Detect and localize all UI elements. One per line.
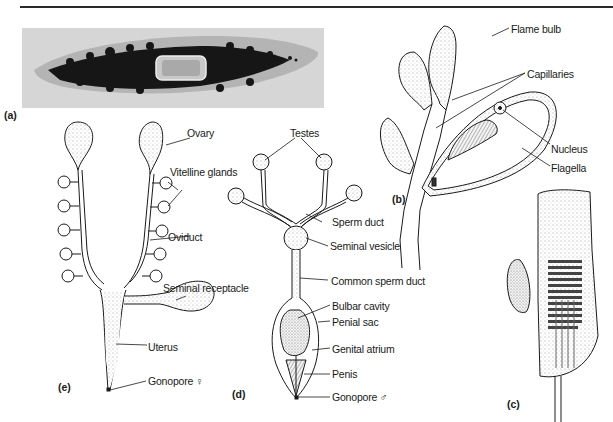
label-genital-atrium: Genital atrium	[332, 343, 395, 355]
label-vitelline-glands: Vitelline glands	[170, 166, 237, 178]
label-uterus: Uterus	[148, 341, 178, 353]
panel-label-c: (c)	[507, 398, 520, 410]
label-common-sperm-duct: Common sperm duct	[331, 275, 425, 287]
label-oviduct: Oviduct	[168, 231, 202, 243]
panel-a-photo	[22, 28, 324, 108]
label-gonopore-male: Gonopore ♂	[332, 391, 388, 403]
panel-label-e: (e)	[58, 381, 71, 393]
panel-c-excretory-tubule	[507, 190, 598, 422]
label-testes: Testes	[290, 127, 319, 139]
panel-label-d: (d)	[232, 388, 245, 400]
planarian-anatomy-figure: (a) (b) (c) (d) (e) Flame bulb Capillari…	[0, 0, 613, 422]
label-nucleus: Nucleus	[551, 143, 588, 155]
diagram-drawings	[0, 0, 613, 422]
label-bulbar-cavity: Bulbar cavity	[332, 300, 390, 312]
label-capillaries: Capillaries	[527, 68, 574, 80]
label-penial-sac: Penial sac	[332, 316, 378, 328]
panel-e-female-reproductive	[58, 122, 214, 391]
panel-b-flame-cells	[380, 26, 556, 270]
label-gonopore-female: Gonopore ♀	[148, 375, 204, 387]
panel-label-a: (a)	[4, 109, 17, 121]
label-penis: Penis	[332, 368, 357, 380]
panel-label-b: (b)	[392, 193, 405, 205]
label-seminal-vesicle: Seminal vesicle	[330, 240, 400, 252]
label-flagella: Flagella	[551, 162, 586, 174]
label-sperm-duct: Sperm duct	[332, 216, 384, 228]
label-flame-bulb: Flame bulb	[511, 23, 561, 35]
label-ovary: Ovary	[187, 127, 214, 139]
label-seminal-receptacle: Seminal receptacle	[163, 282, 249, 294]
